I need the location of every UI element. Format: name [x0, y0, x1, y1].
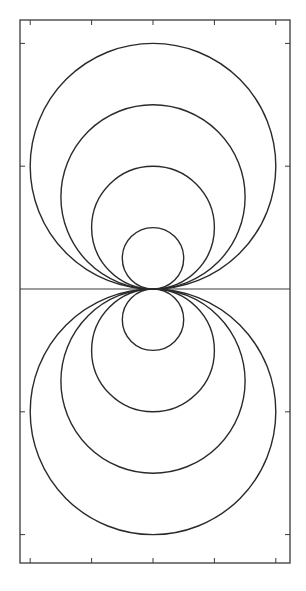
circle-family-plot — [0, 0, 306, 591]
plot-background — [0, 0, 306, 591]
